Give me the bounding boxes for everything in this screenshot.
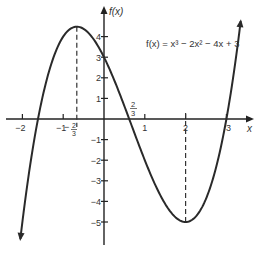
- y-tick-label: 3: [96, 53, 101, 63]
- svg-text:2: 2: [72, 122, 76, 129]
- root-fraction-label: 2 3: [130, 100, 137, 118]
- y-tick-label: −3: [91, 176, 101, 186]
- x-axis-arrow-icon: [246, 116, 254, 123]
- y-tick-label: 1: [96, 94, 101, 104]
- y-tick-label: −1: [91, 135, 101, 145]
- x-tick-label: −2: [15, 123, 25, 133]
- y-tick-label: 4: [96, 32, 101, 42]
- function-plot: x f(x) −2−1123 4321−1−2−3−4−5 f(x) = x³ …: [0, 0, 263, 258]
- y-tick-label: −4: [91, 197, 101, 207]
- svg-text:3: 3: [131, 109, 135, 118]
- equation-label: f(x) = x³ − 2x² − 4x + 3: [146, 38, 239, 49]
- x-axis-ticks: −2−1123: [15, 114, 231, 133]
- curve-right-arrow-icon: [236, 19, 243, 27]
- max-x-fraction-label: − 2 3: [64, 122, 77, 137]
- y-tick-label: −2: [91, 156, 101, 166]
- x-axis-label: x: [246, 123, 253, 134]
- svg-text:3: 3: [72, 130, 76, 137]
- x-tick-label: 3: [226, 123, 231, 133]
- x-tick-label: 1: [142, 123, 147, 133]
- curve-left-arrow-icon: [18, 233, 25, 241]
- y-axis-arrow-icon: [101, 6, 108, 14]
- svg-text:−: −: [64, 122, 69, 132]
- function-curve: [20, 21, 240, 239]
- y-tick-label: −5: [91, 218, 101, 228]
- svg-text:2: 2: [131, 100, 135, 109]
- y-axis-label: f(x): [109, 6, 123, 17]
- y-tick-label: 2: [96, 73, 101, 83]
